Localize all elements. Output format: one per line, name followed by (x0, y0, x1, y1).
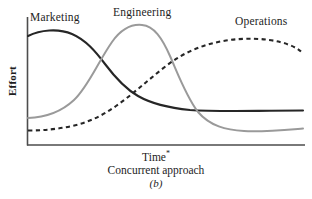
curve-label-engineering: Engineering (113, 6, 171, 18)
curve-operations (28, 39, 301, 131)
curve-label-marketing: Marketing (30, 11, 80, 23)
x-axis-label: Time* (0, 149, 312, 163)
caption-title: Concurrent approach (0, 164, 312, 176)
curve-marketing (28, 30, 303, 111)
curve-engineering (28, 25, 303, 131)
curve-label-operations: Operations (235, 15, 287, 27)
x-axis-label-text: Time (142, 151, 166, 163)
caption-subfigure-label: (b) (0, 177, 312, 189)
x-axis-label-footnote-marker: * (166, 149, 170, 158)
y-axis-label: Effort (6, 58, 18, 104)
concurrent-approach-chart: Marketing Engineering Operations Effort … (0, 0, 312, 199)
